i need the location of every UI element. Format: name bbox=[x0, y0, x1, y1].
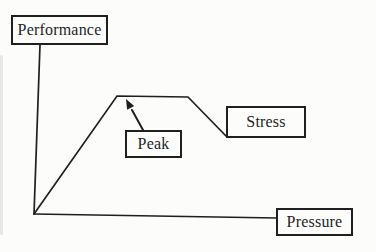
stress-label: Stress bbox=[246, 114, 285, 130]
y-axis-line bbox=[34, 45, 40, 214]
stress-performance-diagram: Performance Peak Stress Pressure bbox=[0, 0, 376, 252]
peak-label: Peak bbox=[138, 136, 170, 152]
performance-label-box: Performance bbox=[11, 15, 108, 45]
peak-arrow-shaft bbox=[132, 110, 143, 130]
stress-label-box: Stress bbox=[226, 106, 306, 138]
pressure-label: Pressure bbox=[287, 214, 343, 230]
peak-label-box: Peak bbox=[125, 130, 182, 158]
scan-edge-artifact bbox=[0, 55, 3, 235]
pressure-label-box: Pressure bbox=[276, 208, 353, 236]
performance-label: Performance bbox=[18, 22, 102, 38]
peak-arrowhead-icon bbox=[126, 99, 134, 110]
x-axis-line bbox=[34, 214, 277, 218]
